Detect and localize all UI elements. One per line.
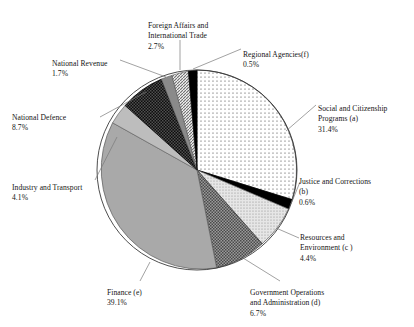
slice-label-defence-line1: National Defence: [12, 113, 66, 122]
slice-label-revenue-line1: National Revenue: [52, 59, 107, 68]
slice-label-resources: Resources and Environment (c ) 4.4%: [300, 222, 400, 275]
slice-label-justice: Justice and Corrections (b) 0.6%: [299, 166, 405, 219]
slice-label-justice-pct: 0.6%: [299, 198, 405, 209]
slice-label-social: Social and Citizenship Programs (a) 31.4…: [318, 93, 412, 146]
slice-label-social-line2: Programs (a): [318, 114, 358, 123]
slice-label-industry: Industry and Transport 4.1%: [12, 172, 120, 214]
slice-label-defence: National Defence 8.7%: [12, 102, 108, 144]
slice-label-govops-pct: 6.7%: [250, 309, 368, 320]
slice-label-regional: Regional Agencies(f) 0.5%: [243, 39, 353, 81]
slice-label-justice-line1: Justice and Corrections: [299, 177, 371, 186]
slice-label-govops: Government Operations and Administration…: [250, 277, 368, 327]
slice-label-revenue-pct: 1.7%: [52, 69, 148, 80]
slice-label-govops-line1: Government Operations: [250, 288, 324, 297]
slice-label-resources-line2: Environment (c ): [300, 243, 353, 252]
leader-line-resources: [276, 228, 299, 238]
slice-label-social-line1: Social and Citizenship: [318, 104, 387, 113]
pie-slices: [97, 70, 297, 270]
slice-label-foreign-line2: International Trade: [148, 31, 207, 40]
slice-label-industry-line1: Industry and Transport: [12, 183, 82, 192]
slice-label-finance-pct: 39.1%: [107, 298, 191, 309]
slice-label-regional-line1: Regional Agencies(f): [243, 50, 309, 59]
slice-label-resources-line1: Resources and: [300, 233, 345, 242]
slice-label-foreign-line1: Foreign Affairs and: [148, 21, 208, 30]
slice-label-revenue: National Revenue 1.7%: [52, 48, 148, 90]
slice-label-defence-pct: 8.7%: [12, 123, 108, 134]
slice-label-govops-line2: and Administration (d): [250, 298, 320, 307]
slice-label-foreign-pct: 2.7%: [148, 42, 252, 53]
slice-label-regional-pct: 0.5%: [243, 60, 353, 71]
pie-chart-figure: Foreign Affairs and International Trade …: [0, 0, 414, 327]
leader-line-social: [286, 105, 316, 131]
slice-label-finance: Finance (e) 39.1%: [107, 277, 191, 319]
slice-label-justice-line2: (b): [299, 187, 308, 196]
slice-label-resources-pct: 4.4%: [300, 254, 400, 265]
slice-label-industry-pct: 4.1%: [12, 193, 120, 204]
slice-label-social-pct: 31.4%: [318, 125, 412, 136]
slice-label-finance-line1: Finance (e): [107, 288, 142, 297]
slice-label-foreign: Foreign Affairs and International Trade …: [148, 10, 252, 63]
